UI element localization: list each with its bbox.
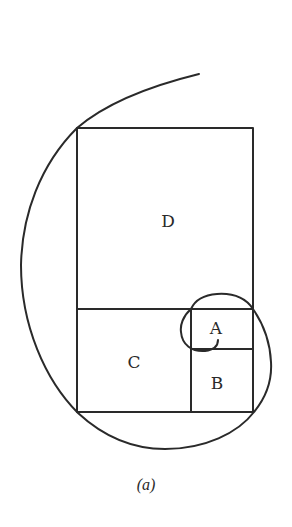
spiral-diagram-canvas xyxy=(0,0,292,527)
region-label-d: D xyxy=(161,213,175,230)
spiral-curve xyxy=(21,74,271,449)
golden-spiral-figure: D C A B (a) xyxy=(0,0,292,527)
figure-caption: (a) xyxy=(137,476,156,494)
region-label-b: B xyxy=(211,375,224,392)
region-label-c: C xyxy=(127,354,140,371)
region-label-a: A xyxy=(210,320,222,337)
outer-rectangle xyxy=(77,128,253,412)
